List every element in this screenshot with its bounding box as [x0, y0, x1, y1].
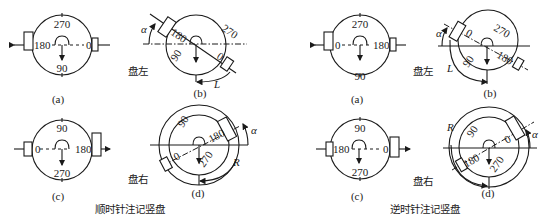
reading-left: 180 — [34, 39, 51, 51]
reading-top: 270 — [54, 18, 71, 30]
svg-text:270: 270 — [487, 153, 507, 174]
arc-label-R: R — [232, 156, 240, 168]
svg-text:(a): (a) — [351, 93, 364, 106]
left-b-dial: α 270 180 0 90 L (b) — [141, 14, 247, 100]
svg-text:(c): (c) — [351, 190, 364, 203]
svg-text:270: 270 — [492, 21, 513, 40]
reading-right: 0 — [86, 39, 92, 51]
left-a-dial: 270 90 180 0 (a) — [14, 13, 110, 106]
svg-text:0: 0 — [35, 143, 41, 155]
face-right-label: 盘右 — [413, 175, 433, 187]
vertical-circle-diagram: 270 90 180 0 (a) 盘左 α 270 180 0 90 L (b) — [0, 0, 546, 219]
face-left-label: 盘左 — [128, 65, 148, 77]
face-right-label: 盘右 — [128, 173, 148, 185]
svg-text:α: α — [436, 27, 442, 39]
svg-text:270: 270 — [352, 18, 369, 30]
svg-text:90: 90 — [464, 123, 480, 139]
svg-text:0: 0 — [383, 143, 389, 155]
svg-text:270: 270 — [54, 167, 71, 179]
group-title-counterclockwise: 逆时针注记竖盘 — [390, 203, 461, 215]
svg-text:α: α — [532, 128, 538, 140]
svg-text:270: 270 — [220, 22, 241, 41]
right-b-dial: α 270 0 180 90 L (b) — [436, 10, 530, 100]
svg-text:(b): (b) — [484, 87, 497, 100]
svg-text:180: 180 — [495, 48, 516, 67]
svg-text:270: 270 — [352, 166, 369, 178]
right-c-dial: 90 270 180 0 (c) — [316, 117, 410, 203]
caption-d: (d) — [192, 187, 205, 200]
face-left-label: 盘左 — [413, 65, 433, 77]
angle-alpha: α — [141, 23, 147, 35]
svg-text:90: 90 — [175, 113, 191, 129]
svg-text:180: 180 — [333, 143, 350, 155]
right-a-dial: 270 90 0 180 (a) — [315, 13, 406, 106]
objective-block-icon — [92, 38, 98, 51]
svg-text:R: R — [446, 121, 454, 133]
reading-bottom: 90 — [57, 62, 69, 74]
svg-text:α: α — [251, 124, 257, 136]
arc-label-L: L — [213, 78, 220, 90]
eyepiece-block-icon — [24, 32, 33, 50]
right-d-dial: α 90 180 0 270 R (d) — [443, 107, 538, 200]
svg-text:(d): (d) — [482, 187, 495, 200]
group-title-clockwise: 顺时针注记竖盘 — [95, 203, 166, 215]
left-c-dial: 90 270 0 180 (c) — [14, 118, 110, 203]
left-d-dial: α 90 0 180 270 R (d) — [150, 105, 257, 200]
svg-text:0: 0 — [464, 26, 475, 39]
svg-text:0: 0 — [502, 132, 513, 145]
caption-b: (b) — [194, 87, 207, 100]
svg-text:L: L — [446, 62, 453, 74]
svg-text:180: 180 — [75, 143, 92, 155]
svg-text:0: 0 — [335, 39, 341, 51]
caption-c: (c) — [52, 190, 65, 203]
svg-text:90: 90 — [355, 70, 367, 82]
svg-text:180: 180 — [373, 39, 390, 51]
bubble-level-icon — [55, 36, 69, 45]
caption-a: (a) — [52, 93, 65, 106]
svg-text:90: 90 — [57, 122, 69, 134]
svg-text:90: 90 — [355, 122, 367, 134]
